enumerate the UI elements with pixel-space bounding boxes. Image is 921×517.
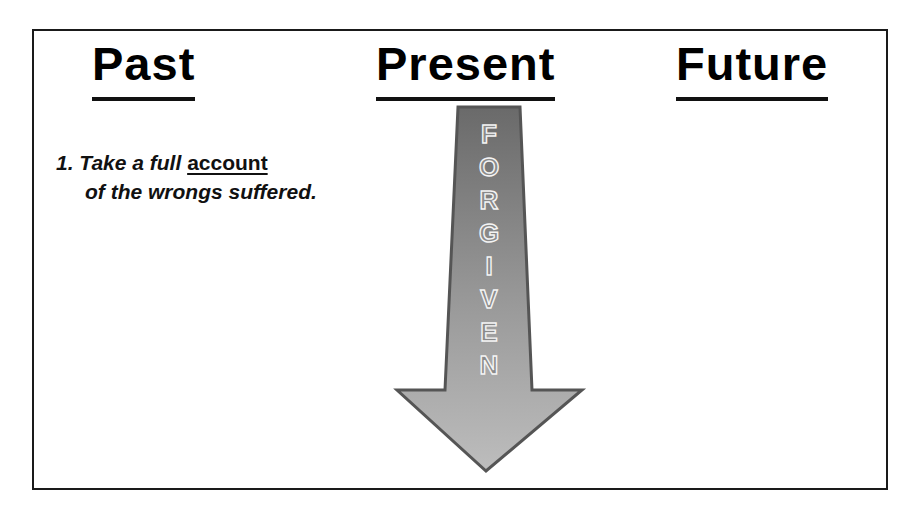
forgiven-label: F O R G I V E N bbox=[461, 118, 517, 382]
arrow-letter: E bbox=[461, 316, 517, 349]
arrow-letter: G bbox=[461, 217, 517, 250]
arrow-letter: V bbox=[461, 283, 517, 316]
arrow-letter: O bbox=[461, 151, 517, 184]
arrow-letter: N bbox=[461, 349, 517, 382]
arrow-letter: I bbox=[461, 250, 517, 283]
arrow-letter: F bbox=[461, 118, 517, 151]
arrow-letter: R bbox=[461, 184, 517, 217]
